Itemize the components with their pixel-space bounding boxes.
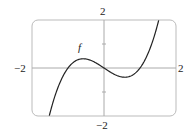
y-min-label: −2 (96, 120, 108, 131)
y-max-label: 2 (100, 6, 106, 17)
x-min-label: −2 (14, 63, 26, 74)
x-max-label: 2 (178, 63, 184, 74)
plot-area (0, 0, 190, 137)
curve-label: f (78, 42, 81, 53)
